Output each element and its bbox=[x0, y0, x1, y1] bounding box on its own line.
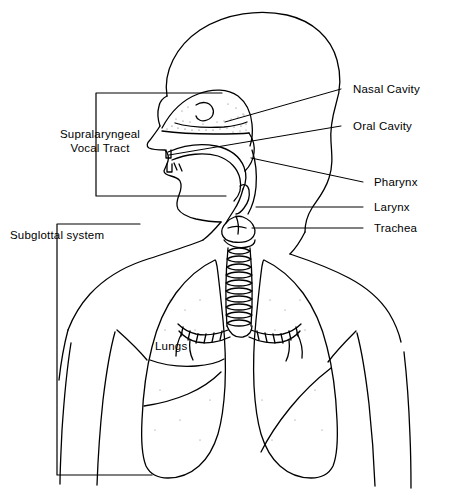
diagram-artwork bbox=[0, 0, 457, 501]
label-nasal-cavity: Nasal Cavity bbox=[353, 82, 420, 96]
label-pharynx: Pharynx bbox=[374, 175, 418, 189]
teeth-detail-a bbox=[174, 163, 177, 170]
lung-left-stipple bbox=[155, 300, 211, 441]
teeth-detail-b bbox=[179, 164, 182, 171]
label-supralaryngeal-line-2: Vocal Tract bbox=[50, 141, 150, 155]
neck-left bbox=[203, 222, 221, 240]
left-bronchus-branch-b bbox=[190, 340, 193, 360]
face-profile bbox=[147, 126, 221, 222]
lung-right-outline bbox=[254, 260, 338, 478]
leader-nasal-cavity bbox=[225, 89, 341, 122]
lower-teeth bbox=[167, 164, 172, 172]
leader-pharynx bbox=[251, 158, 363, 182]
arm-right-inner bbox=[404, 352, 411, 488]
thyroid-cartilage-notch bbox=[236, 216, 238, 234]
label-subglottal-system: Subglottal system bbox=[10, 228, 104, 242]
label-larynx: Larynx bbox=[374, 200, 410, 214]
left-main-bronchus bbox=[178, 324, 228, 335]
nasal-stipple bbox=[167, 104, 247, 133]
lung-right-stipple bbox=[262, 300, 323, 441]
armpit-right bbox=[357, 333, 375, 486]
head-outline bbox=[166, 12, 340, 232]
larynx-inner-a bbox=[228, 227, 246, 229]
pharynx-anterior-wall bbox=[226, 189, 243, 223]
label-lungs: Lungs bbox=[155, 339, 187, 353]
lung-left-fissure-horizontal bbox=[144, 372, 221, 406]
anatomy-diagram: Nasal Cavity Oral Cavity Pharynx Larynx … bbox=[0, 0, 457, 501]
label-supralaryngeal-line-1: Supralaryngeal bbox=[50, 127, 150, 141]
tongue-body bbox=[172, 154, 241, 201]
torso-left-side bbox=[117, 330, 147, 360]
armpit-left bbox=[97, 332, 115, 485]
lung-left-fissure-oblique bbox=[150, 359, 224, 366]
nasal-floor-hard-palate bbox=[162, 131, 249, 134]
turbinate-curl bbox=[196, 103, 213, 121]
neck-right bbox=[290, 232, 305, 254]
right-main-bronchus bbox=[251, 324, 301, 335]
label-oral-cavity: Oral Cavity bbox=[353, 119, 412, 133]
leader-oral-cavity bbox=[169, 126, 341, 155]
label-supralaryngeal-vocal-tract: Supralaryngeal Vocal Tract bbox=[50, 127, 150, 155]
label-trachea: Trachea bbox=[374, 221, 417, 235]
carina bbox=[227, 326, 252, 337]
trachea-rings bbox=[226, 248, 252, 326]
lung-left-outline bbox=[142, 260, 226, 478]
torso-right-side bbox=[328, 331, 356, 362]
turbinate-lower-edge bbox=[175, 122, 247, 127]
right-bronchus-branch-a bbox=[297, 333, 302, 358]
lung-right-fissure-oblique bbox=[261, 368, 331, 452]
right-bronchus-branch-b bbox=[286, 340, 289, 361]
